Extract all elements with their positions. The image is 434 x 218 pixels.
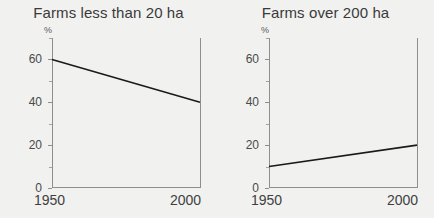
data-series-line	[269, 38, 418, 188]
x-tick-label-1950: 1950	[34, 192, 65, 208]
plot-area: 0 20 40 60	[269, 38, 418, 188]
y-tick-label-20: 20	[29, 138, 42, 152]
plot-area: 0 20 40 60	[52, 38, 201, 188]
x-tick-label-2000: 2000	[387, 192, 418, 208]
y-tick-0: 0	[48, 188, 52, 189]
page-title: Farms over 200 ha	[217, 4, 434, 21]
y-tick-label-40: 40	[246, 95, 259, 109]
y-tick-label-60: 60	[246, 52, 259, 66]
y-tick-label-60: 60	[29, 52, 42, 66]
y-axis-unit-label: %	[261, 25, 269, 35]
y-tick-label-40: 40	[29, 95, 42, 109]
y-axis-unit-label: %	[44, 25, 52, 35]
y-tick-label-20: 20	[246, 138, 259, 152]
x-tick-label-1950: 1950	[251, 192, 282, 208]
page-title: Farms less than 20 ha	[0, 4, 217, 21]
x-tick-label-2000: 2000	[170, 192, 201, 208]
y-tick-0: 0	[265, 188, 269, 189]
data-series-line	[52, 38, 201, 188]
chart-panel-farms-over-200ha: Farms over 200 ha % 0 20 40 60	[217, 0, 434, 218]
chart-panel-farms-less-than-20ha: Farms less than 20 ha % 0 20 40 60	[0, 0, 217, 218]
figure-container: Farms less than 20 ha % 0 20 40 60	[0, 0, 434, 218]
series-segment	[269, 145, 417, 166]
series-segment	[52, 59, 200, 102]
